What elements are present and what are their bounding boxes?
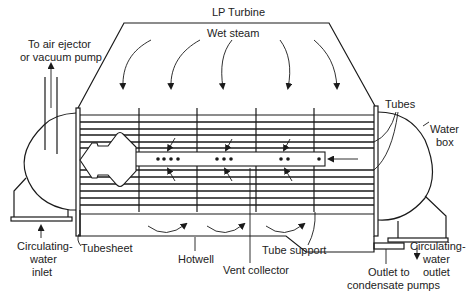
cw-outlet-label-line2: water [423,253,450,265]
vent-collector-label: Vent collector [223,264,289,276]
tubesheet-right [374,106,378,236]
tube-support-label: Tube support [262,244,326,256]
water-box-label-line1: Water [430,123,459,135]
condensate-outlet-label-line1: Outlet to [368,266,410,278]
hotwell-label: Hotwell [178,253,214,265]
lp-turbine-label: LP Turbine [212,6,265,18]
air-ejector-pipe [45,64,57,154]
air-ejector-label-line2: or vacuum pump [20,51,102,63]
cw-inlet-label-line3: inlet [32,266,52,278]
cw-outlet-label-line1: Circulating- [410,240,466,252]
hotwell-arrows [148,224,304,233]
wet-steam-label: Wet steam [207,27,259,39]
air-extraction-shroud [80,133,136,187]
tubesheet-label: Tubesheet [81,242,133,254]
water-box-label-line2: box [436,136,454,148]
vent-collector [120,138,358,181]
cw-inlet-label-line1: Circulating- [17,240,73,252]
cw-inlet-label-line2: water [30,253,57,265]
condensate-outlet-pipe [374,243,404,264]
water-box-left [11,113,76,238]
condensate-outlet-label-line2: condensate pumps [347,279,440,291]
steam-flow-arrows [123,40,337,88]
air-ejector-label-line1: To air ejector [28,38,91,50]
tubes-label: Tubes [385,98,415,110]
cw-outlet-label-line3: outlet [423,266,450,278]
